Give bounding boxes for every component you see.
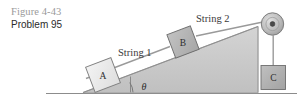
- string-2-label: String 2: [196, 13, 230, 24]
- pulley-axle-hub: [270, 22, 275, 27]
- block-b-label: B: [180, 38, 186, 48]
- physics-figure: Figure 4-43 Problem 95: [0, 0, 301, 107]
- block-a-label: A: [100, 71, 107, 81]
- diagram-canvas: A B C θ String 1 String 2: [0, 0, 301, 107]
- string-1-label: String 1: [118, 47, 152, 58]
- angle-theta-label: θ: [142, 81, 147, 92]
- block-c-label: C: [270, 73, 276, 83]
